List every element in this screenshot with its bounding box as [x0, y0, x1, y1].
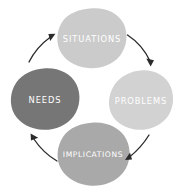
arrow-needs-to-situations [29, 34, 55, 62]
node-situations-label: SITUATIONS [63, 34, 121, 44]
node-situations[interactable]: SITUATIONS [57, 8, 126, 68]
arrow-implications-to-needs [31, 134, 57, 161]
node-implications-label: IMPLICATIONS [63, 150, 123, 159]
arrow-implications-to-needs-path [34, 139, 58, 162]
node-problems[interactable]: PROBLEMS [109, 70, 173, 130]
cycle-diagram: SITUATIONS PROBLEMS IMPLICATIONS NEEDS [0, 0, 184, 193]
arrow-situations-to-problems-path [128, 35, 151, 61]
node-needs[interactable]: NEEDS [11, 68, 80, 130]
node-needs-label: NEEDS [29, 95, 62, 105]
node-implications[interactable]: IMPLICATIONS [58, 123, 130, 186]
arrow-situations-to-problems [128, 35, 155, 67]
arrow-situations-to-problems-head [146, 59, 154, 67]
arrow-needs-to-situations-head [48, 34, 55, 41]
arrow-problems-to-implications-path [130, 135, 150, 157]
arrow-needs-to-situations-path [29, 37, 51, 62]
node-problems-label: PROBLEMS [115, 96, 167, 106]
diagram-canvas: SITUATIONS PROBLEMS IMPLICATIONS NEEDS [0, 0, 184, 193]
